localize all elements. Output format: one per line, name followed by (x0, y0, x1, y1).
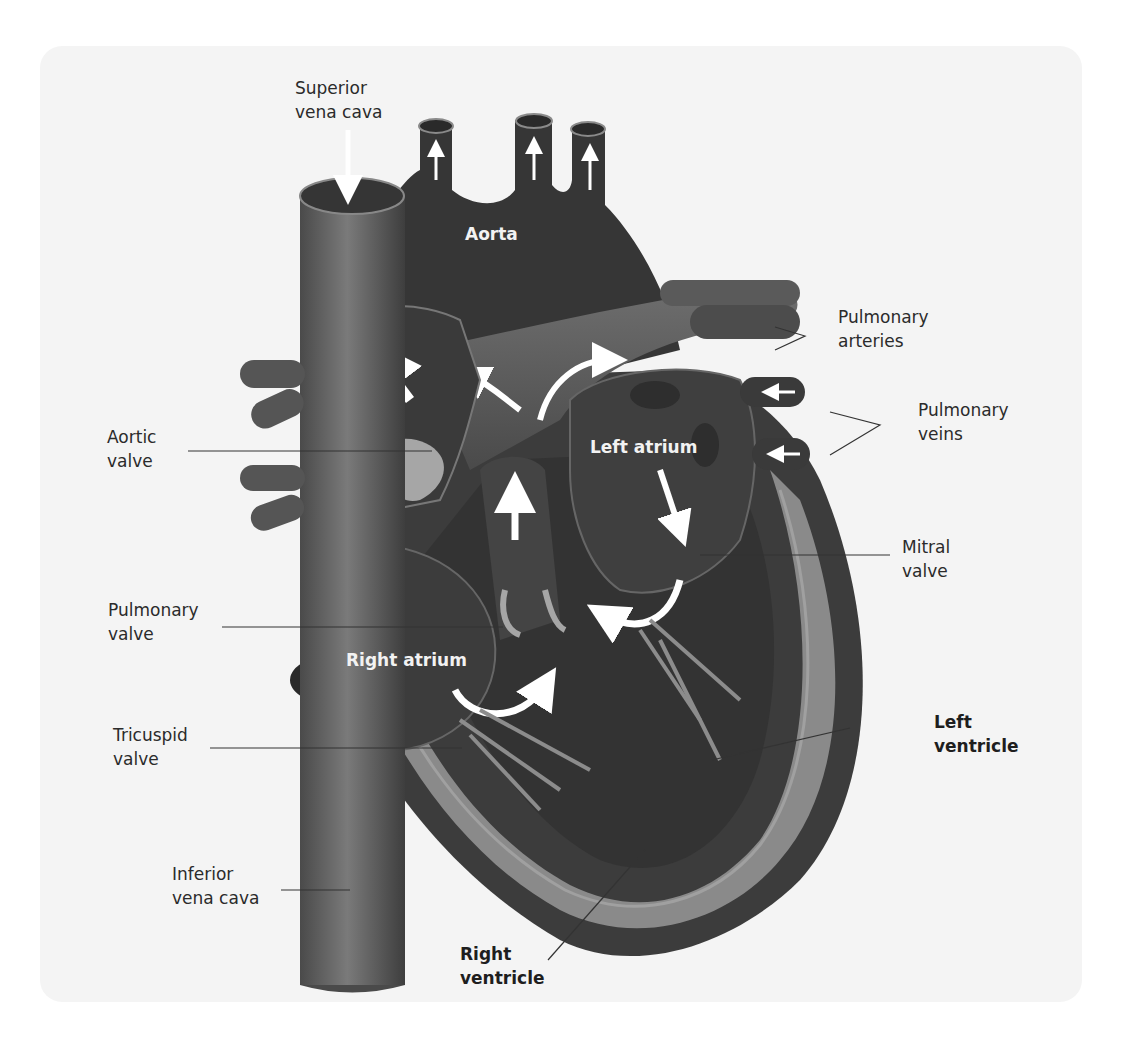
label-pulmonary-veins: Pulmonary veins (918, 398, 1009, 446)
heart-illustration (0, 0, 1125, 1037)
label-tricuspid-valve: Tricuspid valve (113, 723, 188, 771)
label-left-atrium: Left atrium (590, 437, 697, 457)
label-left-ventricle: Left ventricle (934, 710, 1019, 758)
label-mitral-valve: Mitral valve (902, 535, 950, 583)
label-aorta: Aorta (465, 224, 518, 244)
label-superior-vena-cava: Superior vena cava (295, 76, 382, 124)
vena-cava (300, 130, 405, 993)
label-right-ventricle: Right ventricle (460, 942, 545, 990)
side-vessels (240, 360, 308, 534)
label-pulmonary-arteries: Pulmonary arteries (838, 305, 929, 353)
label-aortic-valve: Aortic valve (107, 425, 156, 473)
label-inferior-vena-cava: Inferior vena cava (172, 862, 259, 910)
label-right-atrium: Right atrium (346, 650, 467, 670)
label-pulmonary-valve: Pulmonary valve (108, 598, 199, 646)
